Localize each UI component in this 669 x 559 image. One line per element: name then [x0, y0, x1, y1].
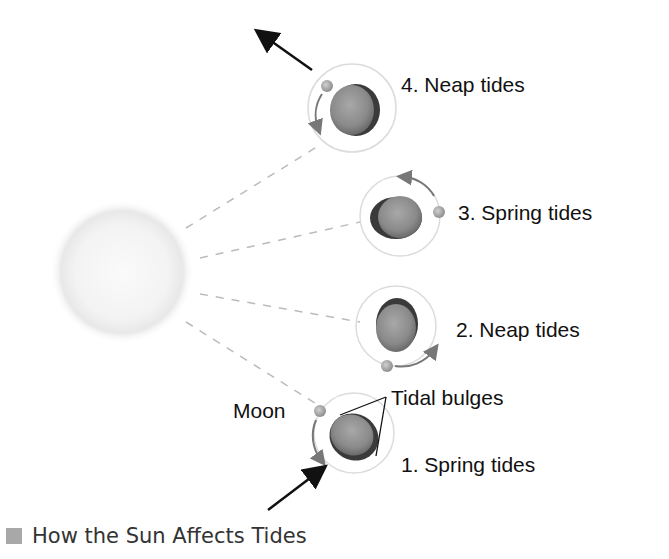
moon-icon — [321, 80, 333, 92]
label-neap-tides-2: 2. Neap tides — [456, 318, 580, 342]
orbit-arrow-icon — [316, 94, 322, 128]
moon-icon — [433, 206, 445, 218]
orbit-arrow-icon — [404, 177, 434, 196]
moon-icon — [314, 405, 326, 417]
tides-diagram — [0, 0, 669, 559]
label-tidal-bulges: Tidal bulges — [391, 386, 503, 410]
caption-text: How the Sun Affects Tides — [32, 524, 307, 548]
label-neap-tides-4: 4. Neap tides — [401, 73, 525, 97]
earth-position-4 — [308, 64, 396, 152]
label-spring-tides-1: 1. Spring tides — [401, 453, 535, 477]
orbit-arrow-icon — [395, 350, 434, 367]
earth-position-3 — [360, 176, 445, 256]
earth-position-1 — [313, 393, 394, 473]
label-spring-tides-3: 3. Spring tides — [458, 201, 592, 225]
sun-icon — [50, 200, 194, 344]
earth-position-2 — [356, 286, 436, 372]
figure-caption: How the Sun Affects Tides — [6, 524, 307, 548]
moon-icon — [381, 360, 393, 372]
sun-rays — [186, 145, 360, 405]
orbit-direction-arrow-icon — [264, 36, 312, 70]
label-moon: Moon — [233, 399, 286, 423]
caption-bullet-icon — [6, 528, 22, 544]
orbit-direction-arrow-icon — [268, 472, 318, 510]
